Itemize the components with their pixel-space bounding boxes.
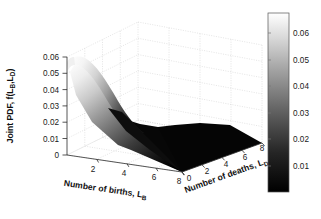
z-tick-labels: 0.06 0.05 0.04 0.03 0.02 0.01 0 <box>43 53 59 160</box>
figure-canvas: 0.06 0.05 0.04 0.03 0.02 0.01 0 2 4 6 8 <box>0 0 321 219</box>
z-tick-label: 0.01 <box>43 135 59 144</box>
z-tick-label: 0.05 <box>43 69 59 78</box>
svg-text:Joint PDF, f(LB,LD): Joint PDF, f(LB,LD) <box>5 69 16 144</box>
colorbar-tick-label: 0.01 <box>293 162 309 171</box>
y-tick-label: 8 <box>260 144 265 153</box>
x-tick-label: 4 <box>122 169 127 178</box>
x-tick-label: 6 <box>152 173 157 182</box>
x-axis-title-sub: B <box>141 194 147 202</box>
svg-text:Number of births, LB: Number of births, LB <box>63 178 148 202</box>
z-tick-label: 0.02 <box>43 118 59 127</box>
colorbar-tick-labels: 0.06 0.05 0.04 0.03 0.02 0.01 <box>293 29 309 171</box>
z-tick-label: 0.04 <box>43 86 59 95</box>
x-axis-title: Number of births, LB <box>63 178 148 202</box>
z-tick-label: 0 <box>54 151 59 160</box>
z-axis-ticks <box>63 57 68 155</box>
y-tick-label: 6 <box>243 153 248 162</box>
surface-plot-3d: 0.06 0.05 0.04 0.03 0.02 0.01 0 2 4 6 8 <box>0 0 321 219</box>
x-tick-label: 8 <box>177 177 182 186</box>
z-tick-label: 0.03 <box>43 102 59 111</box>
colorbar-tick-label: 0.03 <box>293 109 309 118</box>
z-axis-title-end: ) <box>5 69 15 72</box>
y-tick-label: 4 <box>224 160 229 169</box>
colorbar-tick-label: 0.04 <box>293 82 309 91</box>
colorbar-tick-label: 0.06 <box>293 29 309 38</box>
y-tick-label: 2 <box>205 167 210 176</box>
x-axis-title-main: Number of births, L <box>63 178 143 199</box>
colorbar-tick-label: 0.05 <box>293 56 309 65</box>
z-axis-title-mid: ,L <box>5 76 15 84</box>
colorbar-tick-label: 0.02 <box>293 135 309 144</box>
colorbar[interactable]: 0.06 0.05 0.04 0.03 0.02 0.01 <box>268 13 309 192</box>
surface-mesh <box>67 57 262 172</box>
z-axis-title: Joint PDF, f(LB,LD) <box>5 69 16 144</box>
z-tick-label: 0.06 <box>43 53 59 62</box>
colorbar-gradient <box>268 13 289 192</box>
z-axis-title-main: Joint PDF, f(L <box>5 88 15 143</box>
x-tick-label: 2 <box>91 165 96 174</box>
